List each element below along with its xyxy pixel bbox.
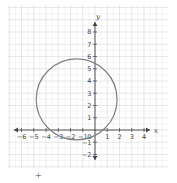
x-tick-label: −4 xyxy=(41,133,51,141)
x-tick-label: 2 xyxy=(117,133,121,141)
y-tick-label: 6 xyxy=(87,53,91,61)
y-tick-label: 2 xyxy=(87,102,91,110)
y-tick-label: −2 xyxy=(82,151,92,159)
y-axis-arrow-up-icon xyxy=(93,22,98,26)
x-axis-label: x xyxy=(154,127,158,135)
x-axis-arrow-right-icon xyxy=(146,128,150,133)
x-tick-label: −6 xyxy=(17,133,27,141)
x-tick-label: −5 xyxy=(29,133,39,141)
y-tick-label: 4 xyxy=(87,77,91,85)
coordinate-plane: −6−5−4−3−2−11234−2−1123456780xy xyxy=(0,0,177,183)
y-tick-label: 1 xyxy=(87,114,91,122)
x-axis-arrow-left-icon xyxy=(14,128,18,133)
y-tick-label: 3 xyxy=(87,90,91,98)
x-tick-label: 4 xyxy=(142,133,146,141)
x-tick-label: 3 xyxy=(130,133,134,141)
y-tick-label: 5 xyxy=(87,65,91,73)
x-tick-label: 1 xyxy=(105,133,109,141)
cursor-mark: + xyxy=(35,172,42,180)
y-axis-arrow-down-icon xyxy=(93,156,98,160)
y-tick-label: 7 xyxy=(87,41,91,49)
y-tick-label: 8 xyxy=(87,28,91,36)
